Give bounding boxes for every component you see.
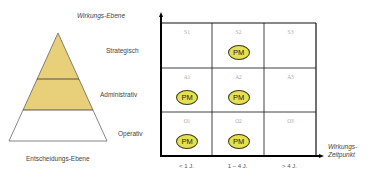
cell-code: A2 — [213, 74, 264, 80]
pm-marker: PM — [228, 90, 250, 105]
x-axis-label-line2: Zeitpunkt — [328, 151, 355, 158]
cell-a1: A1 PM — [162, 69, 212, 112]
cell-a2: A2 PM — [213, 69, 264, 112]
column-label-gt4: > 4 J. — [264, 163, 315, 169]
pyramid-top-band — [37, 33, 79, 79]
x-axis-label-line1: Wirkungs- — [328, 143, 357, 150]
cell-code: O2 — [213, 118, 264, 124]
y-axis-label: Wirkungs-Ebene — [77, 12, 125, 19]
x-axis-arrow-icon — [319, 154, 324, 158]
cell-code: S1 — [162, 29, 212, 35]
y-axis-arrow-icon — [159, 12, 163, 17]
pyramid-title: Entscheidungs-Ebene — [26, 155, 90, 162]
cell-o1: O1 PM — [162, 113, 212, 156]
pyramid-middle-band — [23, 79, 93, 110]
column-label-1to4: 1 – 4 J. — [212, 163, 263, 169]
column-label-lt1: < 1 J. — [161, 163, 212, 169]
pm-marker: PM — [176, 134, 198, 149]
cell-code: S3 — [265, 29, 316, 35]
cell-s1: S1 — [162, 24, 212, 68]
cell-code: S2 — [213, 29, 264, 35]
cell-a3: A3 — [265, 69, 316, 112]
level-label-strategisch: Strategisch — [106, 47, 139, 54]
cell-code: O1 — [162, 118, 212, 124]
cell-o2: O2 PM — [213, 113, 264, 156]
cell-code: O3 — [265, 118, 316, 124]
pm-marker: PM — [228, 45, 250, 60]
cell-s2: S2 PM — [213, 24, 264, 68]
cell-o3: O3 — [265, 113, 316, 156]
cell-code: A1 — [162, 74, 212, 80]
pm-marker: PM — [228, 134, 250, 149]
level-label-operativ: Operativ — [118, 130, 143, 137]
level-label-administrativ: Administrativ — [100, 91, 137, 98]
cell-s3: S3 — [265, 24, 316, 68]
pyramid-bottom-band — [9, 110, 107, 141]
cell-code: A3 — [265, 74, 316, 80]
pm-marker: PM — [176, 90, 198, 105]
